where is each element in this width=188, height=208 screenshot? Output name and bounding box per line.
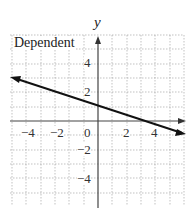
y-tick: −2 bbox=[77, 143, 91, 156]
x-tick: 2 bbox=[123, 126, 130, 139]
y-axis-label: y bbox=[94, 15, 101, 30]
x-tick: −4 bbox=[21, 126, 35, 139]
y-axis-arrow-icon bbox=[95, 36, 101, 44]
y-tick: −4 bbox=[77, 172, 91, 185]
chart-canvas bbox=[0, 0, 188, 208]
x-tick: −2 bbox=[50, 126, 64, 139]
left-arrow-icon bbox=[10, 76, 21, 83]
x-axis-arrow-icon bbox=[178, 118, 186, 124]
y-tick: 2 bbox=[84, 85, 91, 98]
x-tick: 0 bbox=[84, 126, 91, 139]
annotation-label: Dependent bbox=[13, 36, 76, 50]
x-tick: 4 bbox=[151, 126, 158, 139]
y-tick: 4 bbox=[84, 56, 91, 69]
right-arrow-icon bbox=[175, 129, 186, 136]
